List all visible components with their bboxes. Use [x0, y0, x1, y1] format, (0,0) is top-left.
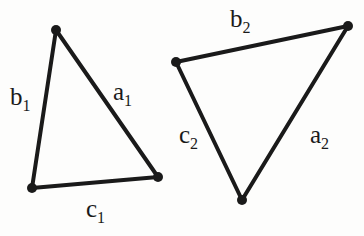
side-label-c1-subscript: 1	[97, 209, 105, 226]
side-label-c2: c2	[179, 122, 198, 147]
triangle-2-vertex-top-right	[343, 21, 353, 31]
side-label-a2: a2	[310, 122, 329, 147]
side-label-a1-base: a	[113, 78, 124, 105]
triangle-1-vertex-apex	[51, 25, 61, 35]
triangle-2	[171, 21, 353, 205]
triangle-2-vertex-top-left	[171, 57, 181, 67]
side-label-b2-base: b	[230, 5, 243, 32]
side-label-c2-base: c	[179, 121, 190, 148]
side-label-c2-subscript: 2	[190, 135, 198, 152]
side-label-b1: b1	[10, 84, 31, 109]
triangle-1-vertex-bottom-right	[153, 172, 163, 182]
side-label-b1-subscript: 1	[23, 97, 31, 114]
side-label-a2-base: a	[310, 121, 321, 148]
triangle-1	[27, 25, 163, 193]
side-label-a1-subscript: 1	[124, 92, 132, 109]
side-label-c1-base: c	[86, 195, 97, 222]
triangle-2-vertex-bottom	[237, 195, 247, 205]
triangle-2-outline	[176, 26, 348, 200]
triangles-canvas	[0, 0, 364, 236]
side-label-a2-subscript: 2	[321, 135, 329, 152]
side-label-b2: b2	[230, 6, 251, 31]
side-label-a1: a1	[113, 79, 132, 104]
side-label-b2-subscript: 2	[243, 19, 251, 36]
triangle-1-vertex-bottom-left	[27, 183, 37, 193]
side-label-b1-base: b	[10, 83, 23, 110]
side-label-c1: c1	[86, 196, 105, 221]
triangle-1-outline	[32, 30, 158, 188]
geometry-figure: b1 a1 c1 b2 c2 a2	[0, 0, 364, 236]
